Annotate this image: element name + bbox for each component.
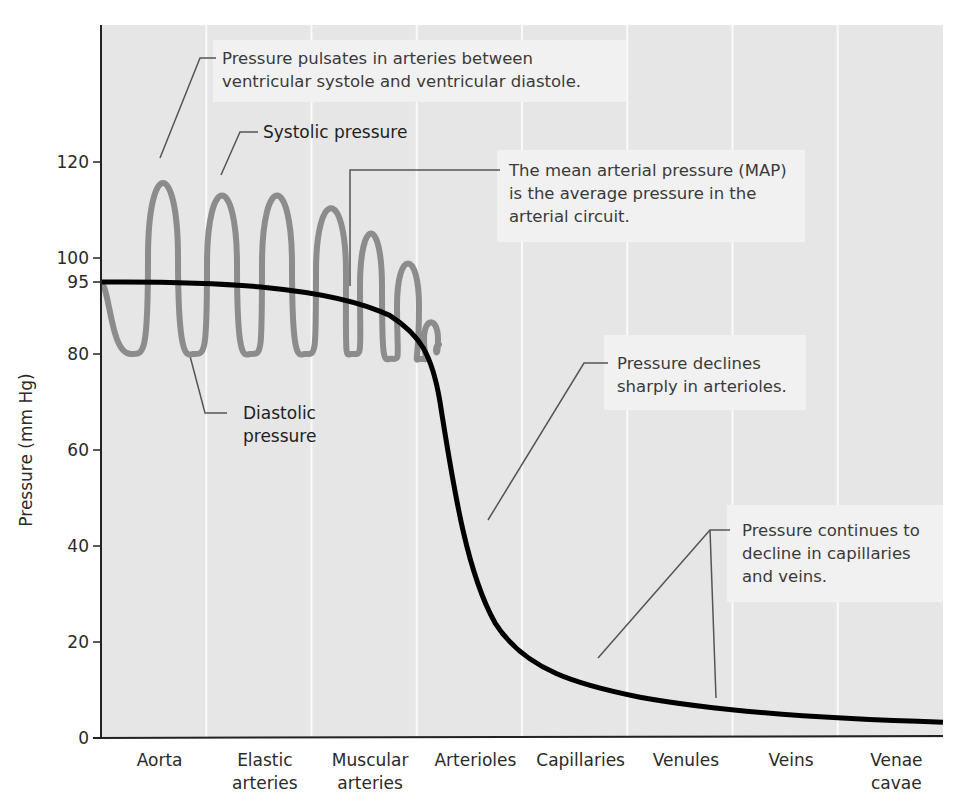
y-axis-ticks: 02040608095100120	[57, 152, 101, 748]
y-tick-label: 95	[67, 272, 89, 292]
y-tick-label: 0	[78, 728, 89, 748]
chart-canvas: 02040608095100120 AortaElasticarteriesMu…	[0, 0, 961, 810]
x-category-label: Venules	[653, 750, 719, 770]
annotation-capillaries: and veins.	[742, 567, 827, 586]
y-axis-label-group: Pressure (mm Hg)	[16, 373, 36, 526]
annotation-map: is the average pressure in the	[509, 184, 756, 203]
x-category-label: cavae	[871, 773, 922, 793]
y-tick-label: 60	[67, 440, 89, 460]
annotation-capillaries: decline in capillaries	[742, 544, 911, 563]
x-category-label: arteries	[232, 773, 298, 793]
annotation-systolic: Systolic pressure	[263, 122, 407, 142]
y-tick-label: 40	[67, 536, 89, 556]
annotation-arterioles: Pressure declines	[617, 354, 761, 373]
x-category-label: Muscular	[332, 750, 409, 770]
x-axis-categories: AortaElasticarteriesMusculararteriesArte…	[137, 750, 923, 793]
blood-pressure-chart: 02040608095100120 AortaElasticarteriesMu…	[0, 0, 961, 810]
annotation-diastolic: Diastolic	[243, 403, 316, 423]
x-category-label: Aorta	[137, 750, 183, 770]
x-category-label: Elastic	[237, 750, 292, 770]
x-category-label: Veins	[769, 750, 814, 770]
x-category-label: Capillaries	[536, 750, 625, 770]
annotation-diastolic: pressure	[243, 426, 316, 446]
annotation-pulsates: ventricular systole and ventricular dias…	[222, 72, 581, 91]
annotation-pulsates: Pressure pulsates in arteries between	[222, 49, 533, 68]
x-category-label: Arterioles	[434, 750, 516, 770]
annotation-capillaries: Pressure continues to	[742, 521, 920, 540]
annotation-map: arterial circuit.	[509, 207, 630, 226]
y-axis-label: Pressure (mm Hg)	[16, 373, 36, 526]
x-category-label: arteries	[337, 773, 403, 793]
y-tick-label: 100	[57, 248, 89, 268]
y-tick-label: 20	[67, 632, 89, 652]
y-tick-label: 80	[67, 344, 89, 364]
y-tick-label: 120	[57, 152, 89, 172]
x-category-label: Venae	[870, 750, 922, 770]
annotation-map: The mean arterial pressure (MAP)	[508, 161, 787, 180]
annotation-arterioles: sharply in arterioles.	[617, 377, 787, 396]
